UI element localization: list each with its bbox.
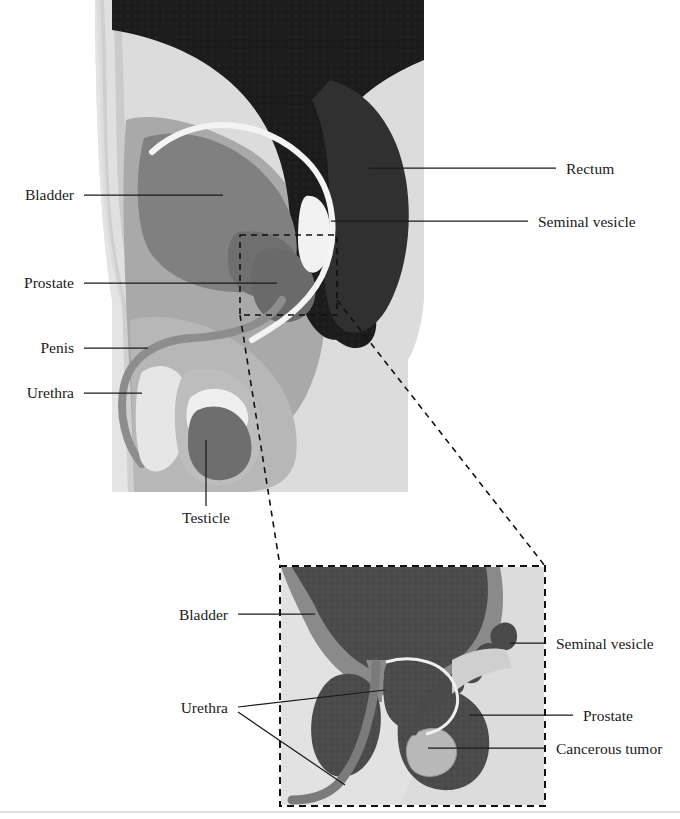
label-cancerous-tumor: Cancerous tumor bbox=[556, 740, 663, 757]
figure-canvas: Bladder Prostate Penis Urethra Rectum Se… bbox=[0, 0, 680, 819]
label-rectum: Rectum bbox=[566, 160, 614, 177]
label-testicle: Testicle bbox=[182, 509, 230, 526]
label-penis: Penis bbox=[40, 339, 74, 356]
main-anatomy-view bbox=[90, 0, 430, 500]
label-seminal-vesicle: Seminal vesicle bbox=[538, 213, 636, 230]
label-bladder-inset: Bladder bbox=[179, 606, 229, 623]
label-seminal-vesicle-inset: Seminal vesicle bbox=[556, 635, 654, 652]
main-view-body bbox=[90, 0, 430, 500]
label-urethra-inset: Urethra bbox=[181, 699, 228, 716]
label-urethra: Urethra bbox=[27, 384, 74, 401]
label-prostate-inset: Prostate bbox=[583, 707, 633, 724]
anatomy-figure: Bladder Prostate Penis Urethra Rectum Se… bbox=[0, 0, 680, 819]
label-bladder: Bladder bbox=[25, 186, 75, 203]
inset-cancerous-tumor bbox=[406, 729, 456, 777]
label-prostate: Prostate bbox=[24, 274, 74, 291]
inset-anatomy-view bbox=[280, 566, 545, 806]
